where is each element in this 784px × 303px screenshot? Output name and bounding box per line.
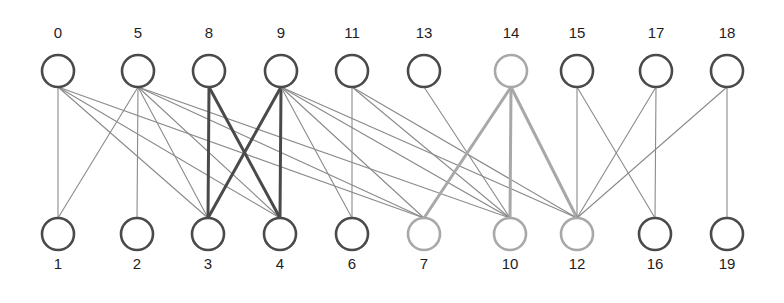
node-label-17: 17	[648, 24, 665, 41]
node-label-1: 1	[54, 255, 62, 272]
node-11	[336, 55, 368, 87]
node-label-6: 6	[348, 255, 356, 272]
node-18	[711, 55, 743, 87]
node-label-11: 11	[344, 24, 360, 41]
edge-9-4	[280, 87, 281, 218]
edge-9-10	[281, 87, 510, 218]
node-8	[193, 55, 225, 87]
node-5	[122, 55, 154, 87]
node-2	[121, 218, 153, 250]
edge-0-7	[58, 87, 424, 218]
node-0	[42, 55, 74, 87]
node-label-19: 19	[719, 255, 736, 272]
node-label-2: 2	[133, 255, 141, 272]
edge-18-12	[577, 87, 727, 218]
node-label-0: 0	[54, 24, 62, 41]
edge-0-4	[58, 87, 280, 218]
edge-8-3	[208, 87, 209, 218]
node-10	[494, 218, 526, 250]
edge-5-3	[138, 87, 208, 218]
node-19	[711, 218, 743, 250]
edge-11-10	[352, 87, 510, 218]
node-3	[192, 218, 224, 250]
edge-5-2	[137, 87, 138, 218]
node-label-3: 3	[204, 255, 212, 272]
edge-9-6	[281, 87, 352, 218]
node-label-5: 5	[134, 24, 142, 41]
node-13	[408, 55, 440, 87]
node-label-15: 15	[569, 24, 586, 41]
node-label-7: 7	[420, 255, 428, 272]
node-9	[265, 55, 297, 87]
bipartite-graph	[0, 0, 784, 303]
edge-0-3	[58, 87, 208, 218]
node-17	[640, 55, 672, 87]
edge-14-10	[510, 87, 511, 218]
node-label-10: 10	[502, 255, 519, 272]
edge-5-1	[58, 87, 138, 218]
edge-17-16	[655, 87, 656, 218]
node-label-14: 14	[503, 24, 520, 41]
node-label-18: 18	[719, 24, 736, 41]
node-label-8: 8	[205, 24, 213, 41]
node-4	[264, 218, 296, 250]
node-7	[408, 218, 440, 250]
node-6	[336, 218, 368, 250]
node-15	[561, 55, 593, 87]
node-label-4: 4	[276, 255, 284, 272]
node-14	[495, 55, 527, 87]
node-label-13: 13	[416, 24, 433, 41]
node-label-16: 16	[647, 255, 664, 272]
node-label-12: 12	[569, 255, 586, 272]
node-16	[639, 218, 671, 250]
node-1	[42, 218, 74, 250]
node-label-9: 9	[277, 24, 285, 41]
nodes-layer	[42, 55, 743, 250]
edges-layer	[58, 87, 727, 218]
node-12	[561, 218, 593, 250]
edge-5-10	[138, 87, 510, 218]
